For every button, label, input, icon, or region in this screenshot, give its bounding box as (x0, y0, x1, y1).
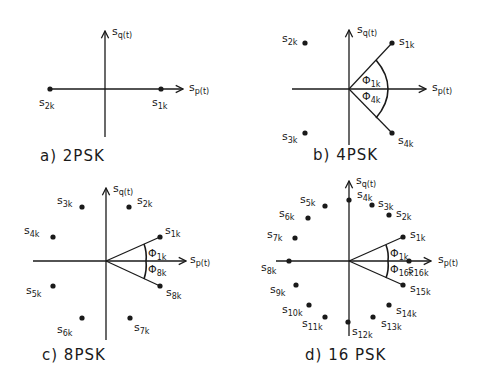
label-s7k: s7k (134, 321, 150, 336)
label-s5k: s5k (300, 193, 316, 208)
label-s3k: s3k (57, 194, 73, 209)
q-axis-label: sq(t) (112, 25, 132, 40)
point-s14k (386, 302, 391, 307)
panel-title: d) 16 PSK (305, 346, 387, 364)
point-s3k (302, 130, 307, 135)
label-s6k: s6k (57, 323, 73, 338)
point-s4k (346, 197, 351, 202)
label-s7k: s7k (267, 228, 283, 243)
point-s8k (286, 258, 291, 263)
label-s5k: s5k (26, 284, 42, 299)
point-s13k (370, 314, 375, 319)
angle-arc-1k (386, 245, 388, 261)
point-s1k (157, 234, 162, 239)
label-s3k: s3k (282, 130, 298, 145)
label-s8k: s8k (261, 261, 277, 276)
q-axis-label: sq(t) (357, 23, 377, 38)
point-s6k (305, 215, 310, 220)
label-s1k: s1k (165, 224, 181, 239)
p-axis-label: sp(t) (432, 81, 452, 96)
angle-label-phi-1k: Φ1k (390, 247, 409, 262)
angle-arc-8k (144, 261, 146, 279)
label-s1k: s1k (152, 96, 168, 111)
angle-label-phi-4k: Φ4k (362, 90, 381, 105)
panel-title: a) 2PSK (40, 147, 105, 165)
panel-8psk: sq(t) sp(t) s1k s2k s3k s4k s5k s6k s7k … (24, 182, 210, 364)
label-s9k: s9k (270, 283, 286, 298)
label-s11k: s11k (302, 317, 323, 332)
point-s7k (127, 315, 132, 320)
point-s6k (79, 315, 84, 320)
p-axis-label: sp(t) (438, 253, 458, 268)
point-s10k (306, 302, 311, 307)
panel-title: b) 4PSK (313, 146, 378, 164)
point-s9k (293, 282, 298, 287)
panel-4psk: sq(t) sp(t) s1k s2k s3k s4k Φ1k Φ4k b) 4… (282, 23, 452, 164)
label-s2k: s2k (396, 207, 412, 222)
point-s3k (369, 202, 374, 207)
point-s11k (322, 314, 327, 319)
label-s1k: s1k (410, 228, 426, 243)
label-s2k: s2k (137, 194, 153, 209)
point-s3k (79, 204, 84, 209)
label-s10k: s10k (282, 303, 303, 318)
label-s1k: s1k (399, 35, 415, 50)
label-s4k: s4k (398, 134, 414, 149)
point-s1k (158, 86, 163, 91)
point-s15k (400, 282, 405, 287)
point-s5k (50, 283, 55, 288)
label-s4k: s4k (24, 224, 40, 239)
angle-arc-1k (144, 244, 146, 261)
panel-2psk: sq(t) sp(t) s1k s2k a) 2PSK (39, 25, 209, 165)
point-s4k (389, 130, 394, 135)
label-s8k: s8k (166, 286, 182, 301)
angle-arc-16k (386, 261, 388, 278)
point-s2k (126, 204, 131, 209)
label-s3k: s3k (378, 197, 394, 212)
point-s4k (50, 234, 55, 239)
q-axis-label: sq(t) (356, 174, 376, 189)
label-s2k: s2k (282, 32, 298, 47)
point-s2k (386, 212, 391, 217)
panel-16psk: sq(t) sp(t) s1k s2k s3k s4k s5k s6k s7k … (261, 174, 458, 364)
point-s12k (345, 319, 350, 324)
angle-label-phi-8k: Φ8k (148, 263, 167, 278)
angle-label-phi-1k: Φ1k (148, 247, 167, 262)
q-axis-label: sq(t) (113, 182, 133, 197)
point-s2k (47, 86, 52, 91)
label-s4k: s4k (357, 188, 373, 203)
p-axis-label: sp(t) (189, 81, 209, 96)
point-s2k (302, 40, 307, 45)
psk-constellation-figure: sq(t) sp(t) s1k s2k a) 2PSK sq(t) sp(t) … (0, 0, 489, 386)
point-s8k (157, 283, 162, 288)
point-s7k (292, 235, 297, 240)
label-s12k: s12k (352, 325, 373, 340)
p-axis-label: sp(t) (190, 253, 210, 268)
panel-title: c) 8PSK (42, 346, 106, 364)
label-s6k: s6k (279, 207, 295, 222)
point-s5k (322, 203, 327, 208)
angle-label-phi-1k: Φ1k (362, 74, 381, 89)
label-s13k: s13k (381, 317, 402, 332)
point-s1k (389, 40, 394, 45)
label-s2k: s2k (39, 96, 55, 111)
label-s15k: s15k (410, 282, 431, 297)
label-s14k: s14k (396, 304, 417, 319)
point-s1k (400, 234, 405, 239)
